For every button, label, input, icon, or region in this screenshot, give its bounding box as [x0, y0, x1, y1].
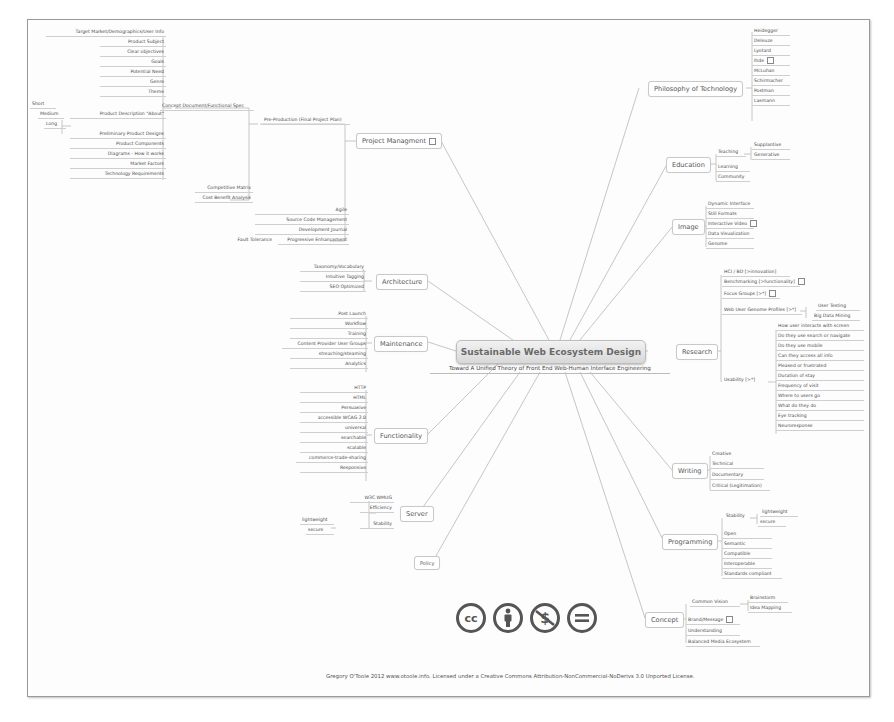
node-usability-item-2[interactable]: Do they use search or navigate	[776, 332, 864, 341]
node-still-formats[interactable]: Still Formats	[706, 210, 754, 219]
node-usability-item-3[interactable]: Do they use mobile	[776, 342, 864, 351]
node-usability-item-1[interactable]: How user interacts with screen	[776, 322, 864, 331]
node-learning[interactable]: Learning	[716, 163, 750, 172]
branch-server[interactable]: Server	[400, 506, 434, 522]
node-persuasive[interactable]: Persuasive	[300, 404, 368, 413]
node-standards-compliant[interactable]: Standards compliant	[722, 570, 782, 579]
node-clear-objectives[interactable]: Clear objectives	[100, 48, 166, 57]
node-html[interactable]: HTML	[300, 394, 368, 403]
node-w3c[interactable]: W3C WMUG	[350, 494, 394, 503]
node-critical[interactable]: Critical (Legitimation)	[710, 482, 770, 491]
node-market-factors[interactable]: Market Factors	[70, 160, 166, 169]
node-preproduction[interactable]: Pre-Production (Final Project Plan)	[262, 116, 350, 125]
node-source-code-management[interactable]: Source Code Management	[255, 216, 349, 225]
node-dynamic-interface[interactable]: Dynamic Interface	[706, 200, 754, 209]
node-analytics[interactable]: Analytics	[290, 360, 368, 369]
node-balanced-media[interactable]: Balanced Media Ecosystem	[686, 638, 760, 647]
node-genome[interactable]: Genome	[706, 240, 754, 249]
node-workflow[interactable]: Workflow	[290, 320, 368, 329]
branch-writing[interactable]: Writing	[672, 463, 708, 479]
node-usability-item-9[interactable]: What do they do	[776, 402, 864, 411]
node-searchable[interactable]: searchable	[300, 434, 368, 443]
node-content-provider-groups[interactable]: Content Provider User Groups	[282, 340, 368, 349]
node-postman[interactable]: Postman	[752, 87, 790, 96]
branch-project-management[interactable]: Project Managment	[356, 133, 442, 149]
branch-research[interactable]: Research	[676, 344, 718, 360]
node-benchmarking[interactable]: Benchmarking [>functionality]	[722, 278, 800, 287]
node-long[interactable]: Long	[44, 120, 66, 129]
node-technical[interactable]: Technical	[710, 460, 764, 469]
node-lightweight[interactable]: lightweight	[300, 516, 334, 525]
node-responsive[interactable]: Responsive	[300, 464, 368, 473]
node-schirmacher[interactable]: Schirmacher	[752, 77, 790, 86]
node-teaching[interactable]: Teaching	[716, 148, 746, 157]
node-focus-groups[interactable]: Focus Groups [>*]	[722, 290, 780, 299]
node-usability-item-11[interactable]: Neuroresponse	[776, 422, 864, 431]
node-community[interactable]: Community	[716, 173, 750, 182]
central-topic[interactable]: Sustainable Web Ecosystem Design	[456, 340, 646, 364]
node-product-components[interactable]: Product Components	[70, 140, 166, 149]
node-usability-item-5[interactable]: Pleased or frustrated	[776, 362, 864, 371]
node-usability-item-7[interactable]: Frequency of visit	[776, 382, 864, 391]
node-concept-document[interactable]: Concept Document/Functional Spec	[160, 102, 254, 111]
node-open[interactable]: Open	[722, 530, 772, 539]
node-efficiency[interactable]: Efficiency	[360, 504, 394, 513]
node-post-launch[interactable]: Post Launch	[290, 310, 368, 319]
node-hci-bd[interactable]: HCI / BD [>innovation]	[722, 268, 790, 277]
node-preliminary-designs[interactable]: Preliminary Product Designs	[70, 130, 166, 139]
node-accessible[interactable]: accessible WCAG 2.0	[300, 414, 368, 423]
node-target-market[interactable]: Target Market/Demographics/User Info	[46, 28, 166, 37]
node-product-subject[interactable]: Product Subject	[100, 38, 166, 47]
node-usability-item-8[interactable]: Where to users go	[776, 392, 864, 401]
node-http[interactable]: HTTP	[300, 384, 368, 393]
node-creative[interactable]: Creative	[710, 450, 764, 458]
node-generative[interactable]: Generative	[752, 151, 790, 160]
node-deleuze[interactable]: Deleuze	[752, 37, 790, 46]
node-data-visualization[interactable]: Data Visualization	[706, 230, 754, 239]
node-usability-item-10[interactable]: Eye tracking	[776, 412, 864, 421]
node-medium[interactable]: Medium	[38, 110, 64, 119]
node-web-user-genome[interactable]: Web User Genome Profiles [>*]	[722, 306, 802, 315]
node-development-journal[interactable]: Development Journal	[255, 226, 349, 235]
node-secure[interactable]: secure	[306, 526, 334, 535]
node-theme[interactable]: Theme	[100, 88, 166, 97]
node-cost-benefit[interactable]: Cost Benefit Analysis	[195, 194, 253, 203]
node-diagrams[interactable]: Diagrams - How it works	[70, 150, 166, 159]
node-product-description[interactable]: Product Description "About"	[70, 110, 166, 119]
node-streaching[interactable]: streaching/steaming	[290, 350, 368, 359]
branch-philosophy[interactable]: Philosophy of Technology	[648, 81, 743, 97]
node-big-data-mining[interactable]: Big Data Mining	[812, 312, 860, 321]
node-lasmann[interactable]: Lasmann	[752, 97, 790, 106]
node-goals[interactable]: Goals	[100, 58, 166, 67]
node-stability[interactable]: Stability	[360, 520, 394, 529]
node-mcluhan[interactable]: McLuhan	[752, 67, 790, 76]
branch-functionality[interactable]: Functionality	[374, 428, 428, 444]
node-universal[interactable]: universal	[300, 424, 368, 433]
node-ihde[interactable]: Ihde	[752, 57, 790, 66]
node-commerce-trade-sharing[interactable]: commerce-trade-sharing	[296, 454, 368, 463]
node-brainstorm[interactable]: Brainstorm	[748, 594, 788, 603]
node-seo-optimized[interactable]: SEO Optimized	[300, 283, 366, 292]
node-agile[interactable]: Agile	[255, 206, 349, 215]
node-common-vision[interactable]: Common Vision	[690, 598, 740, 607]
node-brand-message[interactable]: Brand/Message	[686, 616, 740, 625]
node-intuitive-tagging[interactable]: Intuitive Tagging	[300, 273, 366, 282]
node-prog-stability[interactable]: Stability	[724, 512, 754, 520]
branch-maintenance[interactable]: Maintenance	[374, 336, 428, 352]
node-taxonomy[interactable]: Taxonomy/Vocabulary	[300, 263, 366, 272]
branch-education[interactable]: Education	[666, 157, 711, 173]
node-compatible[interactable]: Compatible	[722, 550, 772, 559]
node-prog-secure[interactable]: secure	[758, 518, 786, 527]
branch-concept[interactable]: Concept	[645, 612, 684, 628]
node-short[interactable]: Short	[30, 100, 56, 109]
node-user-testing[interactable]: User Testing	[816, 302, 860, 311]
node-genre[interactable]: Genre	[100, 78, 166, 87]
node-training[interactable]: Training	[290, 330, 368, 339]
node-heidegger[interactable]: Heidegger	[752, 27, 790, 36]
node-semantic[interactable]: Semantic	[722, 540, 772, 549]
node-lyotard[interactable]: Lyotard	[752, 47, 790, 56]
node-interactive-video[interactable]: Interactive Video	[706, 220, 754, 229]
branch-programming[interactable]: Programming	[662, 534, 718, 550]
branch-architecture[interactable]: Architecture	[376, 274, 428, 290]
node-idea-mapping[interactable]: Idea Mapping	[748, 604, 792, 613]
